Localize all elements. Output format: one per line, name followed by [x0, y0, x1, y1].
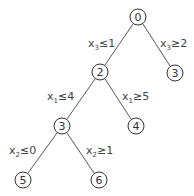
label-x3-le-1: x3≤1	[88, 37, 115, 52]
node-6: 6	[91, 172, 107, 188]
edge-labels: x3≤1 x3≥2 x1≤4 x1≥5 x2≤0 x2≥1	[9, 37, 187, 159]
label-x2-ge-1: x2≥1	[86, 144, 113, 159]
svg-text:2: 2	[97, 66, 104, 79]
svg-text:3: 3	[172, 67, 179, 80]
svg-text:0: 0	[135, 11, 142, 24]
node-4: 4	[128, 118, 144, 134]
svg-text:6: 6	[96, 174, 103, 187]
tree-svg: x3≤1 x3≥2 x1≤4 x1≥5 x2≤0 x2≥1 0 2 3 3 4 …	[0, 0, 194, 196]
branch-tree-diagram: x3≤1 x3≥2 x1≤4 x1≥5 x2≤0 x2≥1 0 2 3 3 4 …	[0, 0, 194, 196]
node-0: 0	[130, 9, 146, 25]
node-3-left: 3	[54, 118, 70, 134]
svg-text:5: 5	[20, 174, 27, 187]
node-2: 2	[92, 64, 108, 80]
node-3-right: 3	[167, 65, 183, 81]
node-5: 5	[15, 172, 31, 188]
label-x2-le-0: x2≤0	[9, 144, 36, 159]
label-x3-ge-2: x3≥2	[160, 37, 187, 52]
svg-text:4: 4	[133, 120, 140, 133]
svg-text:3: 3	[59, 120, 66, 133]
label-x1-ge-5: x1≥5	[122, 90, 149, 105]
label-x1-le-4: x1≤4	[47, 90, 74, 105]
